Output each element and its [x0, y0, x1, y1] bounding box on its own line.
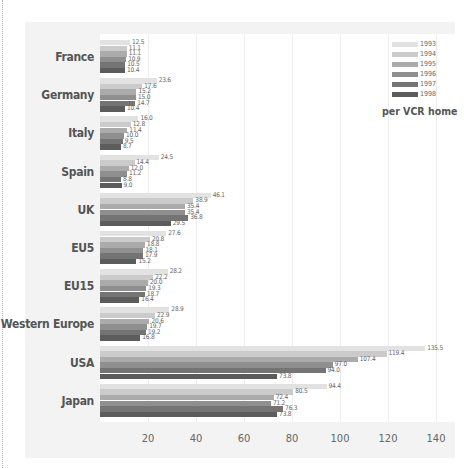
gridline: [436, 34, 437, 422]
bar: [100, 259, 136, 264]
bar: [100, 357, 358, 362]
category-label: USA: [0, 356, 94, 370]
legend-label: 1993: [420, 40, 436, 48]
bar: [100, 133, 124, 138]
category-label: EU5: [0, 241, 94, 255]
legend-label: 1997: [420, 80, 436, 88]
bar: [100, 221, 171, 226]
value-label: 94.4: [329, 383, 341, 389]
x-tick-label: 120: [379, 432, 398, 445]
x-tick-label: 20: [142, 432, 155, 445]
category-label: Spain: [0, 165, 94, 179]
bar: [100, 204, 185, 209]
x-tick-label: 100: [331, 432, 350, 445]
bar: [100, 297, 139, 302]
bar: [100, 335, 140, 340]
bar: [100, 401, 271, 406]
value-label: 107.4: [360, 356, 376, 362]
bar: [100, 177, 121, 182]
bar: [100, 351, 387, 356]
legend-label: 1998: [420, 90, 436, 98]
bar: [100, 292, 145, 297]
category-label: France: [0, 50, 94, 64]
bar: [100, 242, 145, 247]
value-label: 15.2: [138, 258, 150, 264]
legend-swatch: [392, 62, 418, 67]
legend-swatch: [392, 42, 418, 47]
value-label: 16.8: [142, 334, 154, 340]
bar: [100, 395, 274, 400]
bar: [100, 84, 142, 89]
bar: [100, 183, 122, 188]
bar: [100, 374, 277, 379]
value-label: 10.4: [127, 105, 139, 111]
legend-swatch: [392, 52, 418, 57]
value-label: 46.1: [213, 192, 225, 198]
bar: [100, 248, 143, 253]
category-label: Western Europe: [0, 317, 94, 331]
x-tick-label: 60: [238, 432, 251, 445]
value-label: 36.8: [190, 214, 202, 220]
bar: [100, 198, 193, 203]
value-label: 16.4: [141, 296, 153, 302]
value-label: 27.6: [168, 230, 180, 236]
gridline: [388, 34, 389, 422]
legend-label: 1994: [420, 50, 436, 58]
value-label: 28.9: [171, 306, 183, 312]
bar: [100, 160, 135, 165]
legend-swatch: [392, 72, 418, 77]
bar: [100, 330, 146, 335]
bar: [100, 139, 123, 144]
bar: [100, 144, 121, 149]
bar: [100, 275, 153, 280]
bar: [100, 346, 425, 351]
bar: [100, 106, 125, 111]
legend-label: 1995: [420, 60, 436, 68]
bar: [100, 384, 327, 389]
x-tick-label: 140: [427, 432, 446, 445]
bar: [100, 62, 125, 67]
bar: [100, 324, 147, 329]
value-label: 29.5: [173, 220, 185, 226]
bar: [100, 319, 149, 324]
bar: [100, 46, 127, 51]
value-label: 9.0: [124, 182, 133, 188]
bar: [100, 280, 148, 285]
bar: [100, 155, 159, 160]
category-label: Japan: [0, 394, 94, 408]
bar: [100, 286, 146, 291]
bar: [100, 253, 143, 258]
bar: [100, 89, 136, 94]
x-tick-label: 80: [286, 432, 299, 445]
bar: [100, 68, 125, 73]
category-label: EU15: [0, 279, 94, 293]
value-label: 135.5: [427, 345, 443, 351]
value-label: 8.7: [123, 143, 132, 149]
value-label: 80.5: [295, 388, 307, 394]
value-label: 73.8: [279, 373, 291, 379]
bar: [100, 122, 131, 127]
value-label: 73.8: [279, 411, 291, 417]
legend-label: 1996: [420, 70, 436, 78]
bar: [100, 51, 127, 56]
bar: [100, 193, 211, 198]
legend-swatch: [392, 92, 418, 97]
value-label: 23.6: [159, 77, 171, 83]
unit-label: per VCR home: [382, 105, 457, 117]
category-label: UK: [0, 203, 94, 217]
bar: [100, 210, 185, 215]
value-label: 28.2: [170, 268, 182, 274]
bar: [100, 57, 126, 62]
bar: [100, 362, 333, 367]
value-label: 24.5: [161, 154, 173, 160]
category-label: Italy: [0, 126, 94, 140]
value-label: 10.4: [127, 67, 139, 73]
bar: [100, 389, 293, 394]
bar: [100, 406, 283, 411]
bar: [100, 313, 155, 318]
bar: [100, 128, 127, 133]
value-label: 71.2: [273, 400, 285, 406]
x-tick-label: 40: [190, 432, 203, 445]
legend-swatch: [392, 82, 418, 87]
bar: [100, 412, 277, 417]
